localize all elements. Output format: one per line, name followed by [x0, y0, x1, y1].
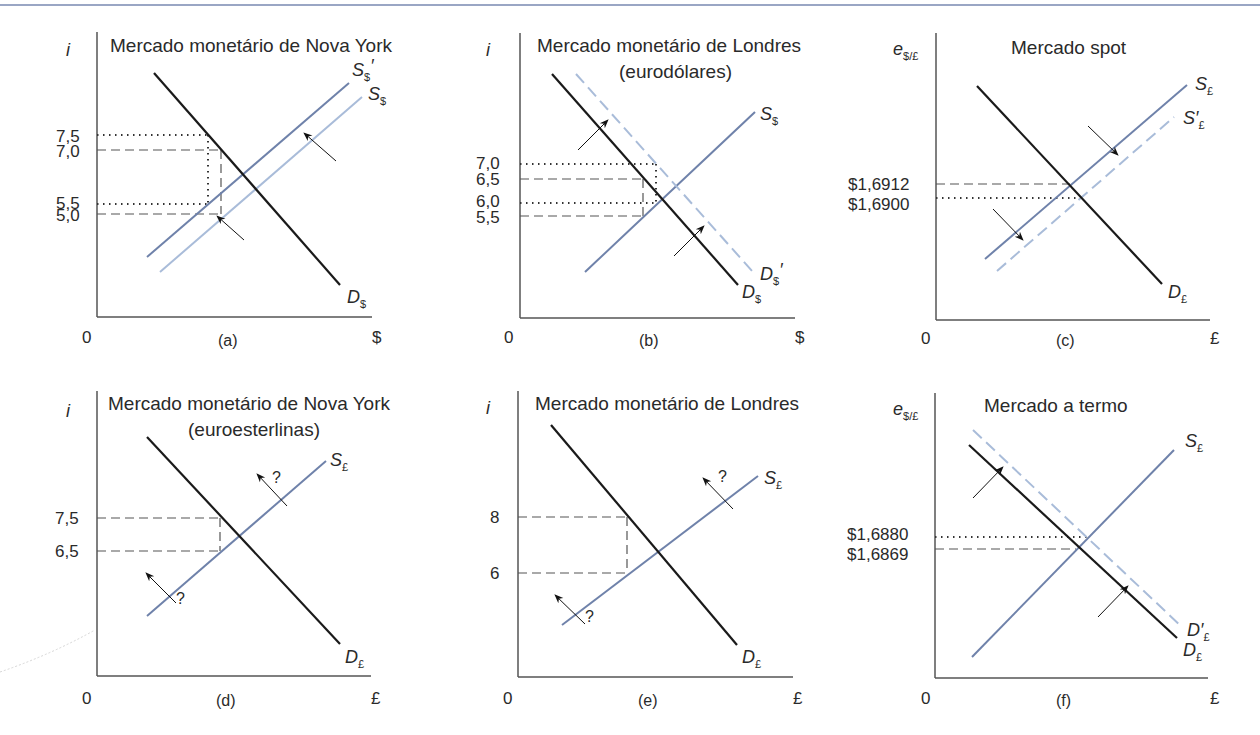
- supply-curve: [985, 85, 1187, 259]
- shift-arrow-icon: [973, 467, 1003, 498]
- origin-label: 0: [921, 689, 930, 708]
- shift-arrow-icon: [146, 573, 176, 603]
- curve-label: S′£: [1183, 108, 1205, 131]
- shift-arrow-icon: [1088, 126, 1118, 155]
- panel-d: i 0 £ (d) Mercado monetário de Nova York…: [55, 391, 390, 709]
- supply-curve-shifted: [997, 117, 1174, 271]
- tick-label: 5,0: [56, 206, 80, 225]
- panel-subtitle: (eurodólares): [619, 61, 732, 82]
- x-axis-label: £: [371, 689, 381, 708]
- supply-curve: [562, 476, 758, 625]
- supply-curve-shifted: [147, 83, 349, 257]
- tick-label: 5,5: [476, 208, 500, 227]
- panel-f: e$/£ 0 £ (f) Mercado a termo $1,6880 $1,…: [847, 393, 1220, 709]
- curve-label: S£: [1195, 74, 1213, 97]
- curve-label: S$′: [352, 56, 374, 83]
- demand-curve: [969, 445, 1177, 638]
- origin-label: 0: [82, 328, 91, 347]
- supply-curve: [147, 461, 326, 616]
- x-axis-label: $: [795, 328, 805, 347]
- panel-caption: (b): [639, 332, 659, 349]
- y-axis-label: i: [66, 401, 71, 421]
- interest-parity-diagram: i 0 $ (a) Mercado monetário de Nova York…: [0, 0, 1260, 735]
- demand-curve: [977, 86, 1162, 284]
- panel-title: Mercado monetário de Londres: [537, 35, 801, 56]
- curve-label: D$′: [760, 260, 783, 287]
- tick-label: $1,6880: [847, 525, 908, 544]
- curve-label: S£: [1185, 431, 1203, 454]
- origin-label: 0: [82, 689, 91, 708]
- y-axis-label: i: [486, 398, 491, 418]
- x-axis-label: £: [1210, 329, 1220, 348]
- panel-caption: (e): [638, 692, 658, 709]
- tick-label: 6,5: [55, 542, 79, 561]
- demand-curve-shifted: [576, 74, 753, 272]
- panel-title: Mercado spot: [1011, 37, 1127, 58]
- panel-title: Mercado monetário de Londres: [535, 393, 799, 414]
- panel-caption: (d): [216, 692, 236, 709]
- decorative-stroke: [0, 630, 95, 672]
- tick-label: $1,6912: [848, 175, 909, 194]
- panel-b: i 0 $ (b) Mercado monetário de Londres (…: [476, 33, 805, 349]
- curve-label: D£: [1183, 640, 1202, 663]
- x-axis-label: £: [1210, 689, 1220, 708]
- tick-label: $1,6869: [847, 545, 908, 564]
- curve-label: D£: [1168, 282, 1187, 305]
- y-axis-label: e$/£: [893, 399, 918, 422]
- shift-arrow-icon: [304, 133, 336, 161]
- origin-label: 0: [921, 329, 930, 348]
- panel-title: Mercado a termo: [984, 395, 1128, 416]
- panel-title: Mercado monetário de Nova York: [110, 35, 392, 56]
- panel-title: Mercado monetário de Nova York: [108, 393, 390, 414]
- curve-label: D$: [347, 287, 366, 310]
- question-mark: ?: [718, 468, 727, 485]
- demand-curve: [147, 437, 340, 644]
- tick-label: 8: [490, 508, 499, 527]
- curve-label: D£: [345, 647, 364, 670]
- origin-label: 0: [503, 689, 512, 708]
- supply-curve: [585, 112, 755, 272]
- panel-c: e$/£ 0 £ (c) Mercado spot $1,6912 $1,690…: [848, 33, 1220, 349]
- panel-subtitle: (euroesterlinas): [188, 419, 320, 440]
- x-axis-label: £: [793, 689, 803, 708]
- y-axis-label: i: [66, 40, 71, 60]
- tick-label: 6: [490, 564, 499, 583]
- supply-curve: [160, 97, 362, 272]
- curve-label: S$: [368, 84, 386, 107]
- panel-e: i 0 £ (e) Mercado monetário de Londres 8…: [486, 391, 803, 709]
- tick-label: 6,5: [476, 170, 500, 189]
- y-axis-label: i: [486, 40, 491, 60]
- question-mark: ?: [585, 608, 594, 625]
- curve-label: S£: [330, 450, 348, 473]
- shift-arrow-icon: [217, 216, 244, 240]
- supply-curve: [972, 450, 1174, 657]
- curve-label: D$: [742, 282, 761, 305]
- origin-label: 0: [504, 328, 513, 347]
- demand-curve-shifted: [973, 430, 1182, 627]
- panel-caption: (c): [1056, 332, 1075, 349]
- shift-arrow-icon: [993, 209, 1023, 240]
- curve-label: S£: [764, 468, 782, 491]
- curve-label: S$: [760, 104, 778, 127]
- panel-a: i 0 $ (a) Mercado monetário de Nova York…: [56, 32, 392, 349]
- tick-label: 7,5: [55, 509, 79, 528]
- shift-arrow-icon: [1098, 586, 1128, 617]
- tick-label: 7,0: [56, 142, 80, 161]
- question-mark: ?: [272, 469, 281, 486]
- y-axis-label: e$/£: [893, 39, 918, 62]
- question-mark: ?: [176, 590, 185, 607]
- curve-label: D£: [742, 647, 761, 670]
- panel-caption: (f): [1056, 692, 1071, 709]
- x-axis-label: $: [372, 328, 382, 347]
- tick-label: $1,6900: [848, 195, 909, 214]
- panel-caption: (a): [218, 332, 238, 349]
- shift-arrow-icon: [578, 120, 608, 150]
